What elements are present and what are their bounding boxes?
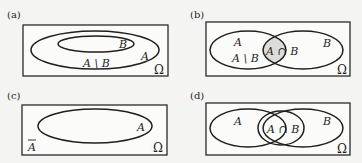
- label-a-minus-b: A \ B: [82, 57, 110, 70]
- label-a: A: [140, 50, 149, 63]
- label-a-complement: A: [27, 141, 36, 154]
- venn-diagrams-figure: (a) B A A \ B Ω (b) A A \ B A ∩ B B Ω (c…: [0, 0, 362, 163]
- label-b: B: [118, 38, 127, 51]
- label-b: B: [322, 115, 331, 128]
- omega-label-d: Ω: [337, 142, 347, 156]
- label-b: B: [322, 37, 331, 50]
- panel-c: (c) A A Ω: [7, 90, 167, 155]
- universe-frame-c: [22, 105, 167, 155]
- label-a-minus-b: A \ B: [231, 52, 259, 65]
- label-a: A: [136, 121, 145, 134]
- panel-d: (d) A A ∩ B B Ω: [190, 90, 350, 156]
- label-a: A: [233, 36, 242, 49]
- panel-label-d: (d): [190, 90, 204, 101]
- panel-label-b: (b): [190, 9, 204, 20]
- omega-label-a: Ω: [154, 63, 164, 77]
- panel-a: (a) B A A \ B Ω: [7, 9, 168, 77]
- panel-b: (b) A A \ B A ∩ B B Ω: [190, 9, 350, 77]
- omega-label-b: Ω: [337, 63, 347, 77]
- panel-label-a: (a): [7, 9, 21, 20]
- label-a-intersect-b: A ∩ B: [266, 123, 299, 136]
- panel-label-c: (c): [7, 90, 21, 101]
- label-a-intersect-b: A ∩ B: [265, 45, 298, 58]
- omega-label-c: Ω: [153, 141, 163, 155]
- label-a: A: [233, 115, 242, 128]
